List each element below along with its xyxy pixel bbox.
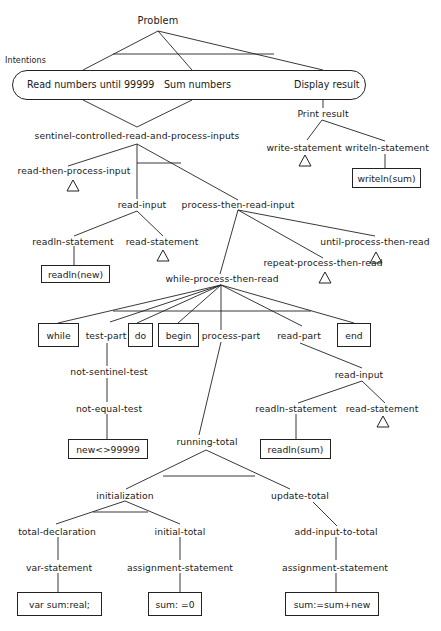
node-test-part: test-part bbox=[86, 330, 127, 341]
code-readln-new: readln(new) bbox=[41, 265, 110, 283]
collapsed-subtree-triangle bbox=[67, 180, 79, 191]
keyword-do: do bbox=[128, 323, 153, 347]
intention-read-numbers: Read numbers until 99999 bbox=[27, 79, 154, 91]
code-sum-init-zero: sum: =0 bbox=[148, 592, 202, 616]
node-process-part: process-part bbox=[202, 330, 261, 341]
node-add-input-to-total: add-input-to-total bbox=[294, 526, 377, 537]
code-var-sum-real: var sum:real; bbox=[17, 592, 102, 616]
node-initial-total: initial-total bbox=[155, 526, 206, 537]
code-new-not-equal-99999: new<>99999 bbox=[68, 439, 148, 459]
node-process-then-read-input: process-then-read-input bbox=[182, 199, 295, 210]
node-not-sentinel-test: not-sentinel-test bbox=[70, 366, 147, 377]
node-read-statement: read-statement bbox=[126, 236, 199, 247]
node-initialization: initialization bbox=[96, 490, 153, 501]
node-read-then-process-input: read-then-process-input bbox=[18, 165, 131, 176]
intention-display-result: Display result bbox=[294, 79, 360, 91]
node-assignment-statement-2: assignment-statement bbox=[282, 562, 388, 573]
code-readln-sum: readln(sum) bbox=[260, 439, 331, 459]
code-sum-plus-new: sum:=sum+new bbox=[285, 592, 379, 616]
node-not-equal-test: not-equal-test bbox=[76, 403, 142, 414]
node-writeln-statement: writeln-statement bbox=[345, 142, 429, 153]
node-total-declaration: total-declaration bbox=[18, 526, 96, 537]
keyword-end: end bbox=[337, 323, 371, 347]
node-read-part: read-part bbox=[277, 330, 321, 341]
keyword-begin: begin bbox=[158, 323, 199, 347]
node-write-statement: write-statement bbox=[266, 142, 341, 153]
intentions-oval: Read numbers until 99999 Sum numbers Dis… bbox=[12, 70, 366, 100]
node-var-statement: var-statement bbox=[26, 562, 92, 573]
root-node-problem: Problem bbox=[138, 15, 179, 26]
collapsed-subtree-triangle bbox=[299, 155, 311, 166]
node-repeat-process-then-read: repeat-process-then-read bbox=[263, 257, 382, 268]
collapsed-subtree-triangle bbox=[319, 272, 331, 283]
node-readln-statement: readln-statement bbox=[32, 236, 113, 247]
intention-sum-numbers: Sum numbers bbox=[164, 79, 231, 91]
node-while-process-then-read: while-process-then-read bbox=[165, 273, 278, 284]
node-read-statement-2: read-statement bbox=[346, 403, 419, 414]
collapsed-subtree-triangle bbox=[157, 250, 169, 261]
node-update-total: update-total bbox=[271, 490, 329, 501]
node-read-input: read-input bbox=[118, 199, 167, 210]
node-running-total: running-total bbox=[176, 436, 237, 447]
node-sentinel-controlled-read-and-process-inputs: sentinel-controlled-read-and-process-inp… bbox=[35, 130, 240, 141]
node-readln-statement-2: readln-statement bbox=[255, 403, 336, 414]
intentions-label: Intentions bbox=[5, 55, 46, 66]
node-print-result: Print result bbox=[297, 108, 348, 119]
node-until-process-then-read: until-process-then-read bbox=[320, 236, 430, 247]
node-read-input-2: read-input bbox=[335, 369, 384, 380]
collapsed-subtree-triangle bbox=[377, 416, 389, 427]
node-assignment-statement-1: assignment-statement bbox=[127, 562, 233, 573]
code-writeln-sum: writeln(sum) bbox=[352, 168, 421, 188]
keyword-while: while bbox=[38, 323, 79, 347]
